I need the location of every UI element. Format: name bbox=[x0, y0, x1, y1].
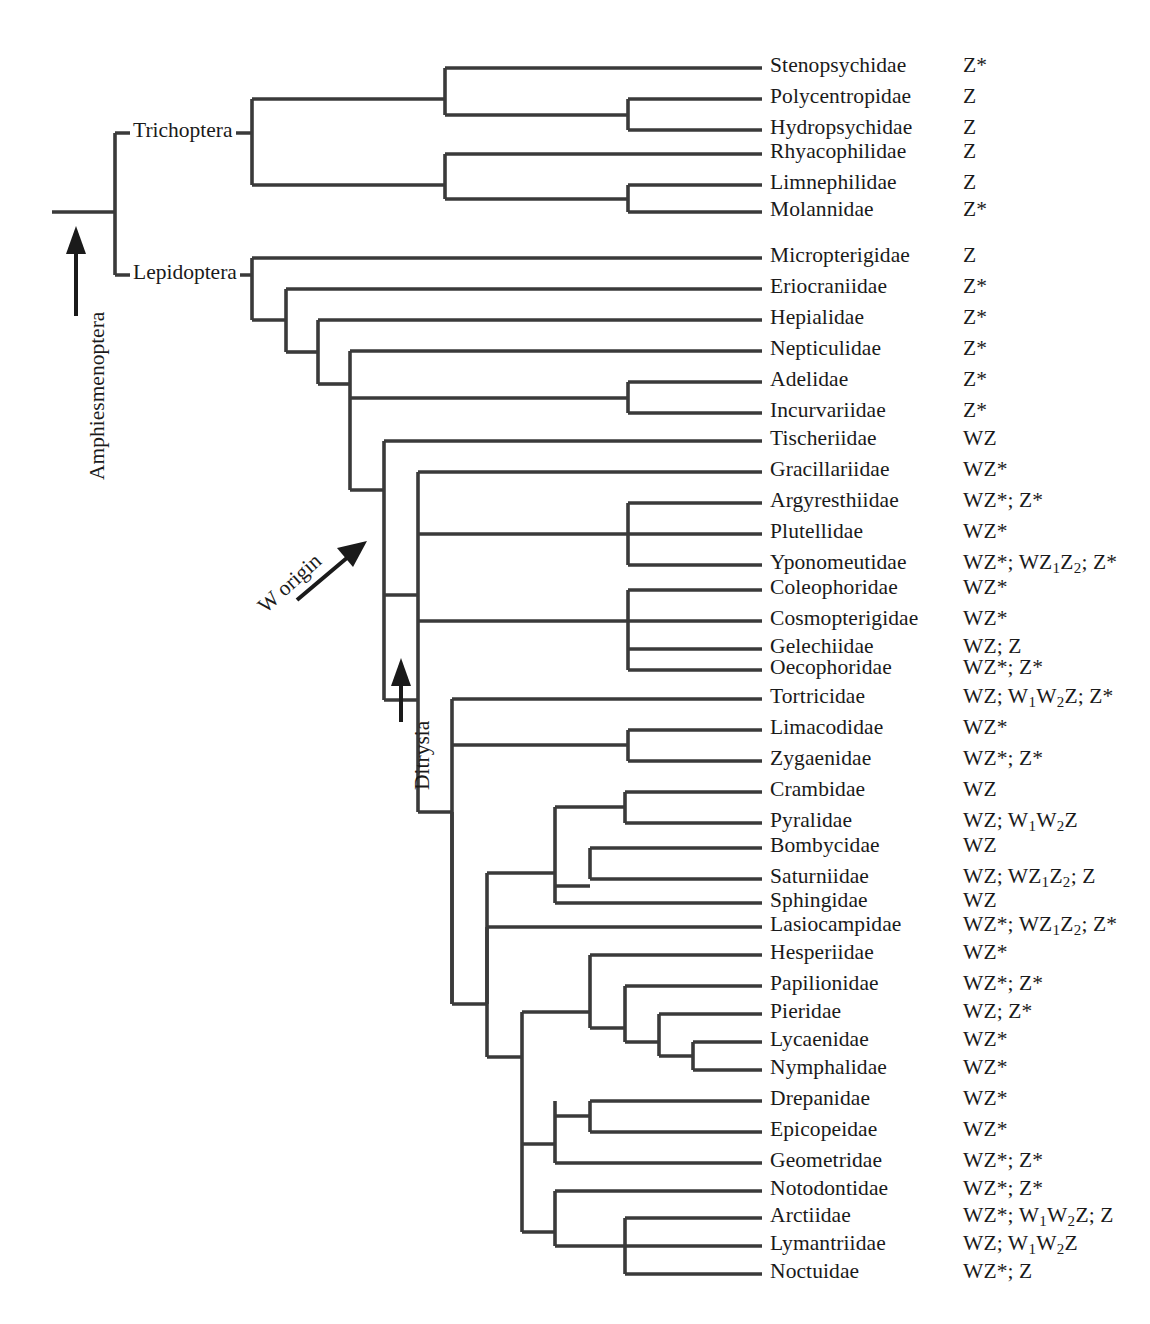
taxon-name: Limnephilidae bbox=[770, 170, 897, 195]
taxon-name: Sphingidae bbox=[770, 888, 868, 913]
taxon-name: Saturniidae bbox=[770, 864, 869, 889]
karyotype-formula: Z* bbox=[963, 367, 987, 392]
taxon-name: Hesperiidae bbox=[770, 940, 874, 965]
taxon-name: Nepticulidae bbox=[770, 336, 881, 361]
karyotype-formula: WZ*; Z* bbox=[963, 1148, 1043, 1173]
karyotype-formula: WZ* bbox=[963, 519, 1007, 544]
taxon-name: Hepialidae bbox=[770, 305, 864, 330]
taxon-name: Notodontidae bbox=[770, 1176, 888, 1201]
karyotype-formula: WZ* bbox=[963, 575, 1007, 600]
karyotype-formula: WZ; W1W2Z bbox=[963, 808, 1078, 835]
vertical-clade-label-amphiesmenoptera: Amphiesmenoptera bbox=[85, 312, 110, 480]
karyotype-formula: Z* bbox=[963, 398, 987, 423]
taxon-name: Nymphalidae bbox=[770, 1055, 887, 1080]
taxon-name: Plutellidae bbox=[770, 519, 863, 544]
annotation-arrow-layer bbox=[66, 226, 411, 722]
tree-branch-layer bbox=[52, 68, 762, 1274]
karyotype-formula: WZ* bbox=[963, 1086, 1007, 1111]
taxon-name: Pyralidae bbox=[770, 808, 852, 833]
taxon-name: Rhyacophilidae bbox=[770, 139, 906, 164]
karyotype-formula: Z bbox=[963, 170, 976, 195]
taxon-name: Hydropsychidae bbox=[770, 115, 912, 140]
karyotype-formula: WZ*; Z* bbox=[963, 1176, 1043, 1201]
karyotype-formula: WZ*; WZ1Z2; Z* bbox=[963, 550, 1117, 577]
taxon-name: Eriocraniidae bbox=[770, 274, 887, 299]
taxon-name: Gracillariidae bbox=[770, 457, 890, 482]
karyotype-formula: WZ bbox=[963, 833, 997, 858]
karyotype-formula: Z* bbox=[963, 197, 987, 222]
taxon-name: Micropterigidae bbox=[770, 243, 910, 268]
karyotype-formula: Z bbox=[963, 243, 976, 268]
taxon-name: Incurvariidae bbox=[770, 398, 886, 423]
karyotype-formula: Z bbox=[963, 84, 976, 109]
taxon-name: Tischeriidae bbox=[770, 426, 877, 451]
taxon-name: Bombycidae bbox=[770, 833, 880, 858]
taxon-name: Tortricidae bbox=[770, 684, 865, 709]
clade-label-trichoptera: Trichoptera bbox=[130, 118, 236, 143]
karyotype-formula: WZ* bbox=[963, 1027, 1007, 1052]
taxon-name: Drepanidae bbox=[770, 1086, 870, 1111]
taxon-name: Argyresthiidae bbox=[770, 488, 899, 513]
taxon-name: Polycentropidae bbox=[770, 84, 911, 109]
karyotype-formula: WZ*; WZ1Z2; Z* bbox=[963, 912, 1117, 939]
karyotype-formula: Z* bbox=[963, 274, 987, 299]
vertical-clade-label-ditrysia: Ditrysia bbox=[410, 721, 435, 790]
taxon-name: Oecophoridae bbox=[770, 655, 892, 680]
karyotype-formula: WZ* bbox=[963, 457, 1007, 482]
karyotype-formula: WZ* bbox=[963, 715, 1007, 740]
taxon-name: Lasiocampidae bbox=[770, 912, 901, 937]
taxon-name: Epicopeidae bbox=[770, 1117, 877, 1142]
karyotype-formula: WZ; W1W2Z; Z* bbox=[963, 684, 1113, 711]
taxon-name: Limacodidae bbox=[770, 715, 883, 740]
karyotype-formula: WZ* bbox=[963, 1055, 1007, 1080]
karyotype-formula: WZ; Z* bbox=[963, 999, 1032, 1024]
taxon-name: Cosmopterigidae bbox=[770, 606, 918, 631]
taxon-name: Noctuidae bbox=[770, 1259, 859, 1284]
taxon-name: Papilionidae bbox=[770, 971, 879, 996]
karyotype-formula: WZ bbox=[963, 777, 997, 802]
taxon-name: Crambidae bbox=[770, 777, 865, 802]
karyotype-formula: WZ bbox=[963, 426, 997, 451]
karyotype-formula: WZ*; Z* bbox=[963, 971, 1043, 996]
karyotype-formula: Z bbox=[963, 115, 976, 140]
karyotype-formula: WZ* bbox=[963, 606, 1007, 631]
phylogeny-figure: StenopsychidaeZ*PolycentropidaeZHydropsy… bbox=[0, 0, 1150, 1324]
taxon-name: Lymantriidae bbox=[770, 1231, 886, 1256]
taxon-name: Pieridae bbox=[770, 999, 841, 1024]
amphiesmenoptera-arrow bbox=[66, 226, 86, 316]
karyotype-formula: WZ; W1W2Z bbox=[963, 1231, 1078, 1258]
karyotype-formula: WZ bbox=[963, 888, 997, 913]
taxon-name: Arctiidae bbox=[770, 1203, 851, 1228]
taxon-name: Geometridae bbox=[770, 1148, 882, 1173]
taxon-name: Molannidae bbox=[770, 197, 874, 222]
karyotype-formula: Z bbox=[963, 139, 976, 164]
clade-label-lepidoptera: Lepidoptera bbox=[130, 260, 240, 285]
karyotype-formula: WZ*; Z* bbox=[963, 655, 1043, 680]
taxon-name: Stenopsychidae bbox=[770, 53, 906, 78]
ditrysia-arrow bbox=[391, 658, 411, 722]
karyotype-formula: Z* bbox=[963, 336, 987, 361]
karyotype-formula: WZ* bbox=[963, 940, 1007, 965]
karyotype-formula: WZ*; W1W2Z; Z bbox=[963, 1203, 1113, 1230]
taxon-name: Yponomeutidae bbox=[770, 550, 907, 575]
karyotype-formula: WZ* bbox=[963, 1117, 1007, 1142]
taxon-name: Zygaenidae bbox=[770, 746, 871, 771]
taxon-name: Adelidae bbox=[770, 367, 848, 392]
taxon-name: Lycaenidae bbox=[770, 1027, 869, 1052]
karyotype-formula: Z* bbox=[963, 53, 987, 78]
karyotype-formula: Z* bbox=[963, 305, 987, 330]
taxon-name: Coleophoridae bbox=[770, 575, 898, 600]
karyotype-formula: WZ*; Z bbox=[963, 1259, 1032, 1284]
karyotype-formula: WZ*; Z* bbox=[963, 488, 1043, 513]
karyotype-formula: WZ*; Z* bbox=[963, 746, 1043, 771]
